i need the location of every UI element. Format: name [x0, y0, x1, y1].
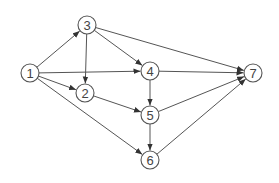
edge-3-to-4 — [94, 30, 142, 65]
edge-1-to-4 — [39, 71, 141, 73]
node-label: 1 — [26, 66, 33, 81]
node-5: 5 — [141, 106, 159, 124]
node-6: 6 — [141, 151, 159, 169]
edge-2-to-5 — [94, 96, 142, 112]
node-label: 4 — [146, 64, 153, 79]
edge-5-to-7 — [158, 77, 244, 112]
edge-4-to-7 — [159, 71, 244, 73]
node-label: 3 — [83, 18, 90, 33]
node-label: 7 — [249, 66, 256, 81]
directed-graph: 1234567 — [0, 0, 279, 183]
edge-3-to-2 — [85, 34, 86, 84]
node-label: 2 — [81, 86, 88, 101]
node-1: 1 — [21, 64, 39, 82]
edge-1-to-3 — [37, 31, 80, 67]
node-4: 4 — [141, 62, 159, 80]
node-7: 7 — [244, 64, 262, 82]
node-label: 5 — [146, 108, 153, 123]
edge-6-to-7 — [157, 79, 246, 154]
edge-3-to-7 — [96, 28, 244, 71]
edges — [37, 28, 246, 155]
node-2: 2 — [76, 84, 94, 102]
node-3: 3 — [78, 16, 96, 34]
node-label: 6 — [146, 153, 153, 168]
